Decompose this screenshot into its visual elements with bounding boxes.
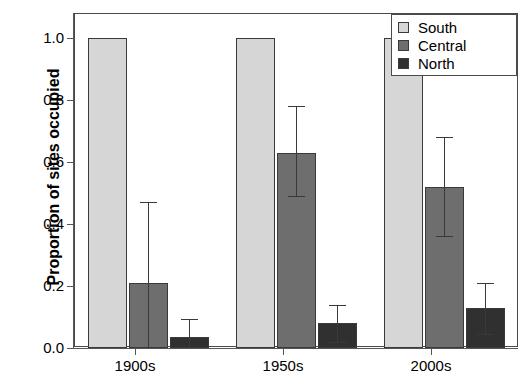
- chart-container: Proportion of sites occupied 0.00.20.40.…: [0, 0, 531, 389]
- error-bar-cap-upper: [288, 106, 305, 107]
- x-tick: [431, 348, 432, 355]
- legend-swatch-icon: [398, 40, 409, 51]
- error-bar-cap-lower: [329, 342, 346, 343]
- legend-item: South: [398, 18, 510, 36]
- bar: [384, 38, 423, 348]
- error-bar-cap-upper: [477, 283, 494, 284]
- y-tick: [67, 286, 74, 287]
- error-bar-cap-upper: [181, 319, 198, 320]
- legend-item: North: [398, 54, 510, 72]
- x-tick-label: 1900s: [90, 357, 180, 374]
- legend: SouthCentralNorth: [391, 14, 517, 76]
- error-bar-cap-lower: [477, 334, 494, 335]
- error-bar-stem: [296, 106, 297, 196]
- bar: [236, 38, 275, 348]
- y-tick-label: 1.0: [22, 29, 64, 46]
- bar: [88, 38, 127, 348]
- error-bar-cap-lower: [288, 196, 305, 197]
- legend-swatch-icon: [398, 22, 409, 33]
- error-bar-stem: [337, 305, 338, 342]
- legend-label: South: [418, 20, 457, 35]
- x-tick: [135, 348, 136, 355]
- y-tick: [67, 224, 74, 225]
- y-tick-label: 0.8: [22, 91, 64, 108]
- error-bar-stem: [148, 202, 149, 348]
- legend-label: Central: [418, 38, 466, 53]
- error-bar-cap-upper: [436, 137, 453, 138]
- error-bar-cap-upper: [329, 305, 346, 306]
- x-axis-line: [74, 348, 518, 349]
- x-tick-label: 1950s: [238, 357, 328, 374]
- y-tick-label: 0.0: [22, 339, 64, 356]
- error-bar-stem: [485, 283, 486, 334]
- error-bar-stem: [189, 319, 190, 348]
- error-bar-stem: [444, 137, 445, 236]
- legend-item: Central: [398, 36, 510, 54]
- error-bar-cap-lower: [436, 236, 453, 237]
- y-tick-label: 0.4: [22, 215, 64, 232]
- y-tick-label: 0.2: [22, 277, 64, 294]
- legend-label: North: [418, 56, 455, 71]
- x-tick: [283, 348, 284, 355]
- error-bar-cap-upper: [140, 202, 157, 203]
- y-axis-line: [73, 13, 74, 348]
- legend-swatch-icon: [398, 58, 409, 69]
- y-tick: [67, 100, 74, 101]
- y-tick: [67, 348, 74, 349]
- y-tick: [67, 162, 74, 163]
- y-tick-label: 0.6: [22, 153, 64, 170]
- x-tick-label: 2000s: [386, 357, 476, 374]
- y-tick: [67, 38, 74, 39]
